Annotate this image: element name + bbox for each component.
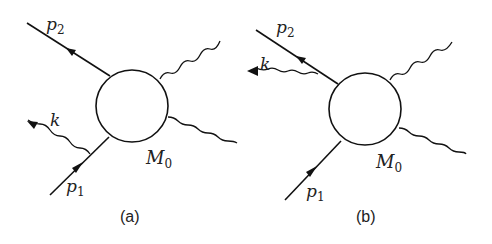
blob-m0-b xyxy=(329,73,401,145)
p2-arrow-icon-a xyxy=(66,48,76,56)
label-k-a: k xyxy=(50,110,60,130)
photon-out-upper-a xyxy=(160,41,220,79)
label-p1-a: p1 xyxy=(66,176,85,199)
label-m0-a: M0 xyxy=(145,147,172,171)
label-p2-a: p2 xyxy=(46,14,65,37)
label-p2-b: p2 xyxy=(276,17,295,40)
blob-m0-a xyxy=(96,70,168,142)
diagram-b: p2 k M0 p1 (b) xyxy=(247,17,466,225)
caption-a: (a) xyxy=(120,208,140,225)
photon-out-upper-b xyxy=(390,42,452,80)
k-arrow-icon-b xyxy=(247,66,258,76)
caption-b: (b) xyxy=(356,208,376,225)
feynman-diagrams: p2 k M0 p1 (a) p2 k M0 p1 (b) xyxy=(0,0,492,244)
photon-out-lower-b xyxy=(399,128,466,154)
photon-out-lower-a xyxy=(168,117,237,143)
label-m0-b: M0 xyxy=(375,151,402,175)
label-k-b: k xyxy=(260,54,270,74)
diagram-a: p2 k M0 p1 (a) xyxy=(27,14,237,225)
label-p1-b: p1 xyxy=(306,181,325,204)
k-arrow-icon-a xyxy=(27,121,38,129)
